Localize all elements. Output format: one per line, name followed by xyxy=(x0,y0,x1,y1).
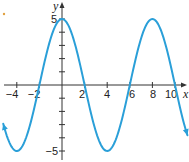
marker-dot xyxy=(3,13,5,15)
x-tick-label: −4 xyxy=(6,88,19,100)
x-axis-label: x xyxy=(182,87,189,101)
x-axis: −4 −2 2 4 6 8 10 x xyxy=(4,82,189,101)
x-tick-label: 6 xyxy=(129,88,135,100)
chart: −4 −2 2 4 6 8 10 x y 5 −5 xyxy=(0,0,189,162)
x-tick-label: 4 xyxy=(104,88,110,100)
x-tick-label: 8 xyxy=(150,88,156,100)
y-tick-label: −5 xyxy=(45,145,58,157)
x-tick-label: 2 xyxy=(79,88,85,100)
y-axis-arrow-icon xyxy=(60,2,65,8)
y-axis-label: y xyxy=(52,0,59,13)
y-axis: y 5 −5 xyxy=(45,0,65,160)
